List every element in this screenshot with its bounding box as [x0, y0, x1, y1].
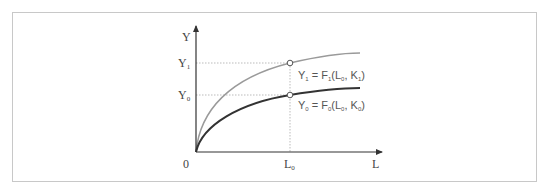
lower-curve	[196, 88, 360, 152]
upper-curve-label: Y1 = F1(L0, K1)	[298, 69, 365, 82]
origin-label: 0	[183, 157, 189, 171]
x-axis-label: L	[372, 157, 379, 171]
lower-curve-label: Y0 = F0(L0, K0)	[298, 99, 365, 112]
y0-tick-label: Y0	[178, 88, 191, 103]
l0-tick-label: L0	[284, 157, 295, 172]
y1-tick-label: Y1	[178, 56, 191, 71]
point-y0	[287, 92, 293, 98]
point-y1	[287, 60, 293, 66]
production-function-diagram: Y L 0 Y1 Y0 L0 Y1 = F1(L0, K1) Y0 = F0(L…	[0, 0, 556, 189]
y-axis-label: Y	[182, 30, 191, 44]
